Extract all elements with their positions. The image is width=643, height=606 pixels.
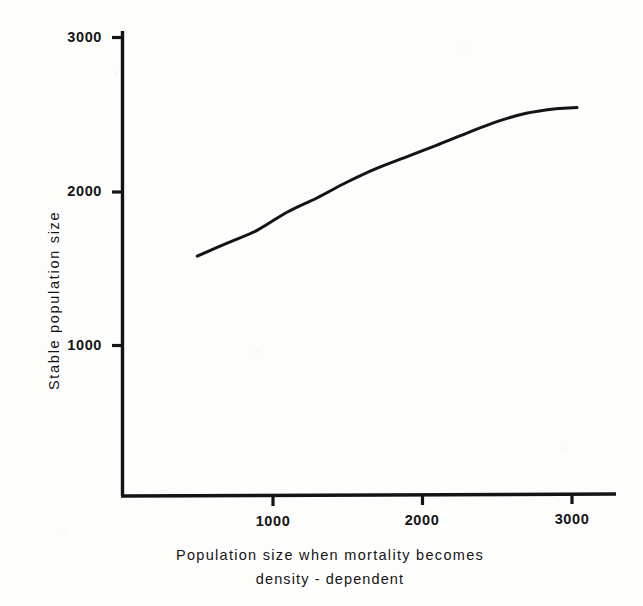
x-tick-label-3000: 3000 bbox=[532, 511, 612, 527]
x-tick-label-1000: 1000 bbox=[233, 513, 313, 529]
chart-figure: 3000 2000 1000 1000 2000 3000 Stable pop… bbox=[0, 0, 643, 606]
x-axis-line bbox=[121, 494, 616, 496]
y-axis-title: Stable population size bbox=[46, 90, 62, 390]
x-axis-title: Population size when mortality becomes d… bbox=[80, 543, 580, 591]
x-axis-title-line-1: Population size when mortality becomes bbox=[80, 543, 580, 567]
y-tick-label-3000: 3000 bbox=[44, 29, 102, 45]
x-tick-label-2000: 2000 bbox=[382, 512, 462, 528]
x-axis-title-line-2: density - dependent bbox=[80, 567, 580, 591]
data-series-line-stable-population-size bbox=[197, 108, 577, 257]
